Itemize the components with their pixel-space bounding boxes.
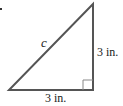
diagram-canvas: c 3 in. 3 in. [0,0,123,106]
right-angle-marker [83,80,93,90]
right-triangle [9,4,93,90]
hypotenuse-label: c [41,35,47,50]
horizontal-leg-label: 3 in. [45,91,66,105]
triangle-figure: c 3 in. 3 in. [0,0,123,106]
vertical-leg-label: 3 in. [97,45,118,59]
